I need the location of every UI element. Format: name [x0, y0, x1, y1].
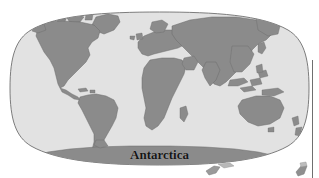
- scanned-page: Antarctica: [0, 0, 319, 178]
- clipped-fragment-right: [288, 160, 314, 178]
- clipped-fragment-left: [200, 160, 240, 178]
- world-map-figure: Antarctica: [0, 0, 319, 178]
- world-map-svg: [0, 0, 319, 178]
- land-tasmania: [268, 127, 274, 132]
